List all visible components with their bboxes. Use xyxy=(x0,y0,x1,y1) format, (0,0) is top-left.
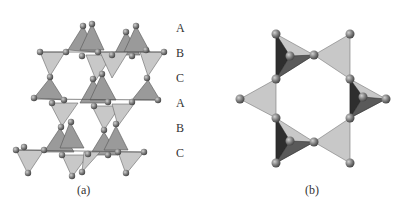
layer-label-c1: C xyxy=(176,71,184,86)
caption-b: (b) xyxy=(305,183,319,198)
panel-a-stacking-structure xyxy=(13,21,167,179)
layer-label-b1: B xyxy=(176,46,184,61)
layer-label-a1: A xyxy=(176,21,185,36)
layer-label-c2: C xyxy=(176,146,184,161)
caption-a: (a) xyxy=(77,183,90,198)
panel-b-hexagonal-ring xyxy=(236,30,391,168)
crystal-structure-figure xyxy=(0,0,406,208)
layer-label-b2: B xyxy=(176,121,184,136)
layer-label-a2: A xyxy=(176,96,185,111)
